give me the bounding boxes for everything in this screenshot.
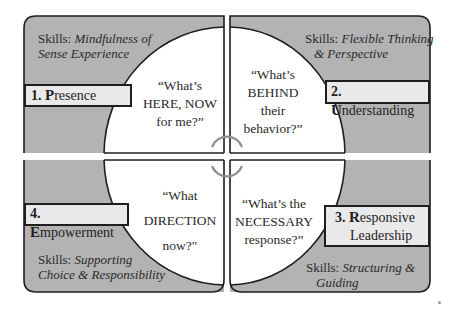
skills-prefix: Skills: <box>305 31 342 46</box>
question-line: now?" <box>135 233 225 258</box>
question-responsive-leadership: “What’s the NECESSARY response?” <box>232 195 316 249</box>
question-line: DIRECTION <box>135 208 225 233</box>
skills-line: Supporting <box>75 252 133 267</box>
skills-responsive-leadership: Skills: Structuring & Guiding <box>306 260 415 290</box>
label-initial: R <box>349 209 360 225</box>
question-line: “What’s <box>233 66 313 84</box>
skills-line: Guiding <box>316 275 359 290</box>
label-understanding: 2. Understanding <box>325 80 430 104</box>
skills-prefix: Skills: <box>38 31 75 46</box>
skills-line: & Perspective <box>314 46 388 61</box>
label-number: 4. <box>30 206 41 221</box>
question-line: “What’s <box>140 77 220 95</box>
label-initial: U <box>331 102 342 118</box>
question-line: “What’s the <box>232 195 316 213</box>
skills-understanding: Skills: Flexible Thinking & Perspective <box>305 31 434 61</box>
label-rest: resence <box>54 88 96 103</box>
skills-prefix: Skills: <box>306 260 343 275</box>
skills-presence: Skills: Mindfulness of Sense Experience <box>38 31 151 61</box>
label-rest: nderstanding <box>342 103 414 118</box>
question-line: BEHIND <box>233 84 313 102</box>
label-rest-line2: Leadership <box>335 228 412 243</box>
skills-prefix: Skills: <box>38 252 75 267</box>
label-number: 1. <box>31 88 42 103</box>
question-empowerment: “What DIRECTION now?" <box>135 183 225 258</box>
label-initial: E <box>30 224 40 240</box>
skills-line: Mindfulness of <box>75 31 152 46</box>
question-line: for me?” <box>140 113 220 131</box>
skills-line: Choice & Responsibility <box>38 267 165 282</box>
question-line: “What <box>135 183 225 208</box>
question-line: their <box>233 102 313 120</box>
question-line: NECESSARY <box>232 213 316 231</box>
label-empowerment: 4. Empowerment <box>24 203 129 226</box>
skills-line: Structuring & <box>343 260 416 275</box>
label-initial: P <box>45 87 54 103</box>
skills-line: Sense Experience <box>38 46 129 61</box>
label-number: 3. <box>335 210 346 225</box>
question-understanding: “What’s BEHIND their behavior?” <box>233 66 313 138</box>
skills-line: Flexible Thinking <box>342 31 434 46</box>
label-rest: esponsive <box>360 210 415 225</box>
label-rest: mpowerment <box>40 225 114 240</box>
question-line: response?” <box>232 231 316 249</box>
question-line: behavior?” <box>233 120 313 138</box>
label-number: 2. <box>331 84 342 99</box>
label-responsive-leadership: 3. Responsive Leadership <box>324 205 430 247</box>
question-line: HERE, NOW <box>140 95 220 113</box>
stray-dot <box>438 301 441 304</box>
label-presence: 1. Presence <box>24 84 132 107</box>
question-presence: “What’s HERE, NOW for me?” <box>140 77 220 131</box>
